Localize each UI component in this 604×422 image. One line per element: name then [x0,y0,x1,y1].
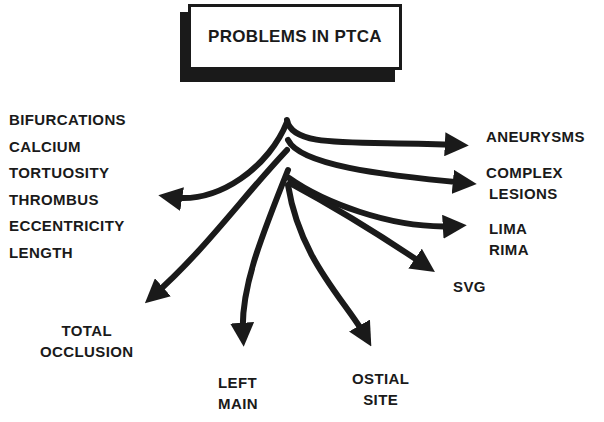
list-item-calcium: CALCIUM [9,138,126,165]
arrow-lima-rima [289,178,456,226]
label-lima-rima: LIMA RIMA [489,218,529,260]
label-left-main: LEFT MAIN [218,372,258,414]
label-ostial-site: OSTIAL SITE [352,368,409,410]
list-item-eccentricity: ECCENTRICITY [9,217,126,244]
list-item-length: LENGTH [9,244,126,271]
arrow-aneurysms [287,120,458,145]
list-item-tortuosity: TORTUOSITY [9,164,126,191]
label-svg: SVG [453,276,486,297]
list-item-thrombus: THROMBUS [9,191,126,218]
label-total-occlusion: TOTAL OCCLUSION [40,320,134,362]
left-problem-list: BIFURCATIONS CALCIUM TORTUOSITY THROMBUS… [9,111,126,270]
label-complex-lesions: COMPLEX LESIONS [486,162,563,204]
label-aneurysms: ANEURYSMS [486,126,585,147]
list-item-bifurcations: BIFURCATIONS [9,111,126,138]
arrow-thrombus [169,122,287,198]
